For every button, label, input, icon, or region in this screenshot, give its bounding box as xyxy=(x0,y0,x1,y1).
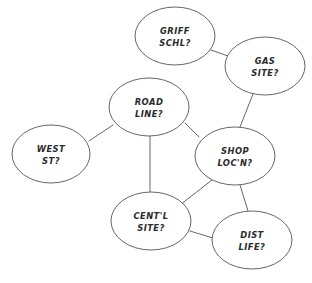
node-west-st[interactable]: WESTST? xyxy=(12,125,90,183)
node-label-line2-west-st: ST? xyxy=(42,156,60,166)
node-shape-gas-site xyxy=(225,37,305,95)
node-label-line1-road-line: ROAD xyxy=(135,97,164,107)
edge-centl-site--dist-life xyxy=(190,231,213,238)
edge-griff-schl--gas-site xyxy=(211,50,228,56)
node-label-line1-shop-locn: SHOP xyxy=(221,146,249,156)
node-label-line2-road-line: LINE? xyxy=(135,109,163,119)
nodes-layer: GRIFFSCHL?GASSITE?ROADLINE?WESTST?SHOPLO… xyxy=(12,7,305,269)
concept-map-graph: GRIFFSCHL?GASSITE?ROADLINE?WESTST?SHOPLO… xyxy=(0,0,312,283)
node-centl-site[interactable]: CENT'LSITE? xyxy=(111,192,191,250)
node-label-line2-gas-site: SITE? xyxy=(251,68,278,78)
node-shape-road-line xyxy=(109,78,189,136)
node-shape-west-st xyxy=(12,125,90,183)
node-label-line1-griff-schl: GRIFF xyxy=(160,26,190,36)
node-label-line1-dist-life: DIST xyxy=(240,230,264,240)
node-dist-life[interactable]: DISTLIFE? xyxy=(212,211,292,269)
node-shape-shop-locn xyxy=(195,127,275,185)
node-gas-site[interactable]: GASSITE? xyxy=(225,37,305,95)
edge-shop-locn--centl-site xyxy=(180,180,212,205)
node-shop-locn[interactable]: SHOPLOC'N? xyxy=(195,127,275,185)
node-label-line1-gas-site: GAS xyxy=(255,56,276,66)
node-road-line[interactable]: ROADLINE? xyxy=(109,78,189,136)
edge-gas-site--shop-locn xyxy=(240,94,253,127)
node-griff-schl[interactable]: GRIFFSCHL? xyxy=(135,7,215,65)
node-shape-centl-site xyxy=(111,192,191,250)
node-label-line2-centl-site: SITE? xyxy=(137,223,164,233)
node-label-line1-west-st: WEST xyxy=(37,144,66,154)
node-shape-dist-life xyxy=(212,211,292,269)
diagram-canvas: GRIFFSCHL?GASSITE?ROADLINE?WESTST?SHOPLO… xyxy=(0,0,312,283)
node-label-line2-shop-locn: LOC'N? xyxy=(217,158,252,168)
node-label-line2-griff-schl: SCHL? xyxy=(159,38,190,48)
node-shape-griff-schl xyxy=(135,7,215,65)
edge-road-line--west-st xyxy=(89,125,113,141)
node-label-line2-dist-life: LIFE? xyxy=(239,242,266,252)
edge-road-line--shop-locn xyxy=(185,123,199,137)
edge-shop-locn--dist-life xyxy=(240,185,248,211)
node-label-line1-centl-site: CENT'L xyxy=(134,211,169,221)
